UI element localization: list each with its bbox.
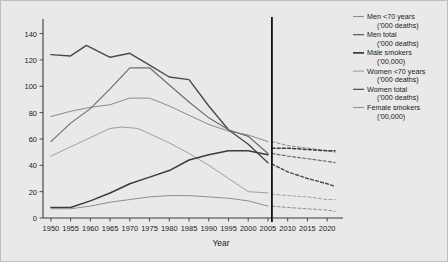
legend-units-4: ('000 deaths) [377, 93, 419, 102]
series-line-women-70-years [51, 127, 268, 193]
y-tick-label: 0 [33, 214, 37, 223]
line-chart: 020406080100120140 195019551960196519701… [1, 1, 448, 262]
x-axis-title: Year [212, 238, 229, 248]
x-tick-label: 1960 [82, 224, 99, 233]
x-tick-label: 2000 [240, 224, 257, 233]
legend-units-5: ('00,000) [377, 112, 405, 121]
x-tick-label: 1950 [43, 224, 60, 233]
y-tick-label: 120 [24, 56, 37, 65]
chart-figure: 020406080100120140 195019551960196519701… [0, 0, 448, 262]
series-line-female-smokers [51, 196, 268, 209]
x-tick-label: 1985 [181, 224, 198, 233]
legend-units-0: ('000 deaths) [377, 21, 419, 30]
y-tick-label: 140 [24, 30, 37, 39]
chart-legend: Men <70 years('000 deaths)Men total('000… [353, 12, 426, 121]
series-line-men-total [51, 45, 268, 162]
y-axis-tick-labels: 020406080100120140 [24, 30, 37, 223]
axis-tickmarks [40, 34, 328, 222]
series-projection-women-total [272, 148, 335, 151]
legend-units-3: ('000 deaths) [377, 75, 419, 84]
x-tick-label: 1980 [161, 224, 178, 233]
axis-lines [43, 19, 343, 218]
y-tick-label: 100 [24, 82, 37, 91]
y-tick-label: 60 [29, 135, 37, 144]
x-axis-tick-labels: 1950195519601965197019751980198519901995… [43, 224, 336, 233]
x-tick-label: 2005 [260, 224, 277, 233]
x-tick-label: 2010 [279, 224, 296, 233]
y-tick-label: 20 [29, 188, 37, 197]
x-tick-label: 2020 [319, 224, 336, 233]
series-projection-female-smokers [272, 206, 335, 211]
x-tick-label: 1995 [220, 224, 237, 233]
y-tick-label: 80 [29, 109, 37, 118]
series-projection-male-smokers [272, 153, 335, 162]
series-projection-men-total [272, 164, 335, 186]
series-projected [272, 142, 335, 212]
legend-units-2: ('00,000) [377, 57, 405, 66]
x-tick-label: 1990 [200, 224, 217, 233]
x-tick-label: 1975 [141, 224, 158, 233]
x-tick-label: 2015 [299, 224, 316, 233]
series-observed [51, 45, 268, 208]
series-projection-women-70-years [272, 194, 335, 199]
x-tick-label: 1970 [121, 224, 138, 233]
x-tick-label: 1965 [102, 224, 119, 233]
x-tick-label: 1955 [62, 224, 79, 233]
legend-units-1: ('000 deaths) [377, 39, 419, 48]
y-tick-label: 40 [29, 161, 37, 170]
